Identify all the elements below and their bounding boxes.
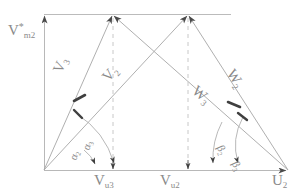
diagram-canvas: V*m2 Vu3 Vu2 U2 V3 V2 W2 W3 α2 α3 β2 β3 [0, 0, 308, 194]
tick-label-Vu3: Vu3 [94, 172, 114, 190]
axis-label-U2: U2 [272, 172, 287, 190]
axis-label-Vm2: V*m2 [8, 22, 35, 40]
velocity-triangle-svg [0, 0, 308, 194]
angle-arc-beta3 [236, 113, 247, 163]
vector-V2-line [44, 16, 187, 170]
tick-label-Vu2: Vu2 [160, 172, 180, 190]
angle-arc-alpha2 [84, 150, 95, 164]
